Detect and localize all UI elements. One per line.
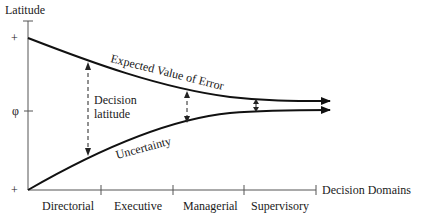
- domain-executive: Executive: [114, 199, 162, 213]
- y-axis: [23, 21, 33, 190]
- domain-managerial: Managerial: [183, 199, 238, 213]
- x-axis-title: Decision Domains: [322, 183, 411, 197]
- y-tick-plus-top: +: [11, 31, 18, 45]
- uncertainty-curve: [28, 110, 330, 190]
- diagram-canvas: Latitude + φ + Decision Domains Director…: [0, 0, 423, 218]
- lower-curve-label: Uncertainty: [114, 134, 172, 162]
- x-axis: [28, 185, 316, 195]
- decision-latitude-arrow-1: [85, 62, 91, 156]
- annotation-line-2: latitude: [94, 107, 130, 121]
- upper-curve-label: Expected Value of Error: [109, 51, 225, 93]
- y-tick-phi: φ: [12, 104, 19, 118]
- decision-latitude-diagram: Latitude + φ + Decision Domains Director…: [0, 0, 423, 218]
- domain-supervisory: Supervisory: [251, 199, 309, 213]
- decision-latitude-arrow-3: [253, 99, 259, 112]
- domain-directorial: Directorial: [42, 199, 95, 213]
- decision-latitude-arrow-2: [184, 91, 190, 123]
- annotation-line-1: Decision: [94, 93, 137, 107]
- y-axis-title: Latitude: [5, 3, 45, 17]
- y-tick-plus-bottom: +: [11, 183, 18, 197]
